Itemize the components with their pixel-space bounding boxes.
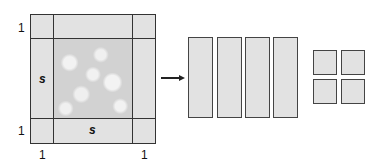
label-below-left-1: 1: [39, 149, 46, 161]
corner-top-right: [132, 14, 156, 39]
unit-square-2: [341, 50, 365, 75]
unit-square-3: [313, 79, 337, 104]
label-bottom-s: s: [89, 124, 96, 136]
label-below-right-1: 1: [141, 149, 148, 161]
strip-4: [273, 37, 298, 118]
strip-1: [188, 37, 213, 118]
label-left-s: s: [39, 73, 46, 85]
corner-top-left: [30, 14, 54, 39]
label-top-1: 1: [18, 22, 25, 34]
strip-3: [245, 37, 270, 118]
corner-bottom-left: [30, 118, 54, 144]
band-top: [53, 14, 133, 39]
label-bottom-1: 1: [18, 125, 25, 137]
unit-square-4: [341, 79, 365, 104]
center-square-s: [53, 38, 133, 119]
corner-bottom-right: [132, 118, 156, 144]
band-right: [132, 38, 156, 119]
unit-square-1: [313, 50, 337, 75]
strip-2: [217, 37, 242, 118]
